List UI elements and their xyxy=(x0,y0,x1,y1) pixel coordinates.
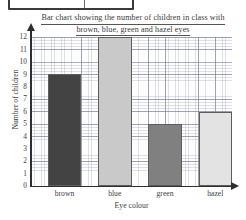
x-tick-label-green: green xyxy=(148,189,182,198)
x-tick-label-blue: blue xyxy=(98,189,132,198)
x-tick-label-brown: brown xyxy=(48,189,82,198)
x-tick-label-hazel: hazel xyxy=(199,189,233,198)
bar-chart: 1211109876543210 Number of children brow… xyxy=(0,0,246,220)
x-axis-tick-labels: brownbluegreenhazel xyxy=(0,0,246,220)
x-axis-title: Eye colour xyxy=(31,201,232,210)
